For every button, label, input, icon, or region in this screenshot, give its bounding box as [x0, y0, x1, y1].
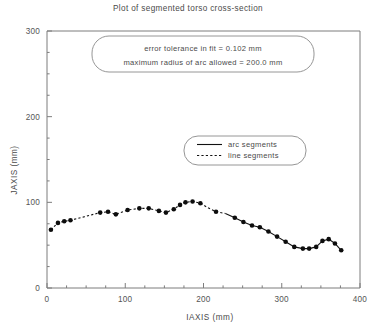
legend-label: line segments — [228, 151, 279, 160]
data-point — [178, 203, 183, 208]
data-point — [275, 234, 280, 239]
data-point — [68, 218, 73, 223]
y-tick-label: 100 — [26, 198, 41, 207]
data-point — [56, 221, 61, 226]
series-path-arc-segments — [225, 213, 341, 250]
chart-figure: Plot of segmented torso cross-section010… — [0, 0, 376, 332]
data-point — [266, 229, 271, 234]
data-point — [183, 200, 188, 205]
data-point — [164, 210, 169, 215]
plot-canvas: Plot of segmented torso cross-section010… — [0, 0, 376, 332]
data-point — [190, 199, 195, 204]
y-tick-label: 0 — [35, 284, 40, 293]
data-point — [320, 239, 325, 244]
data-point — [250, 223, 255, 228]
x-axis-title: IAXIS (mm) — [186, 313, 233, 322]
data-point — [137, 206, 142, 211]
data-point — [339, 248, 344, 253]
data-point — [106, 209, 111, 214]
series-path-line-segments — [51, 201, 226, 229]
data-point — [314, 245, 319, 250]
data-point — [198, 201, 203, 206]
data-point — [146, 206, 151, 211]
data-point — [125, 208, 130, 213]
annotation-line-1: error tolerance in fit = 0.102 mm — [144, 44, 262, 53]
data-point — [62, 219, 67, 224]
data-point — [333, 241, 338, 246]
data-point — [171, 207, 176, 212]
data-point — [114, 212, 119, 217]
data-point — [258, 225, 263, 230]
data-point — [157, 209, 162, 214]
chart-title: Plot of segmented torso cross-section — [113, 4, 263, 13]
annotation-line-2: maximum radius of arc allowed = 200.0 mm — [123, 58, 282, 67]
data-point — [49, 227, 54, 232]
x-tick-label: 0 — [45, 295, 50, 304]
data-point — [214, 209, 219, 214]
data-point — [307, 246, 312, 251]
data-point — [326, 237, 331, 242]
legend-label: arc segments — [228, 140, 277, 149]
data-point — [98, 210, 103, 215]
data-point — [301, 246, 306, 251]
data-point — [233, 215, 238, 220]
y-tick-label: 300 — [26, 27, 41, 36]
x-tick-label: 200 — [196, 295, 211, 304]
data-point — [241, 220, 246, 225]
y-axis-title: JAXIS (mm) — [10, 145, 19, 194]
data-point — [292, 245, 297, 250]
data-point — [283, 239, 288, 244]
x-tick-label: 300 — [275, 295, 290, 304]
y-tick-label: 200 — [26, 113, 41, 122]
x-tick-label: 400 — [353, 295, 368, 304]
x-tick-label: 100 — [118, 295, 133, 304]
